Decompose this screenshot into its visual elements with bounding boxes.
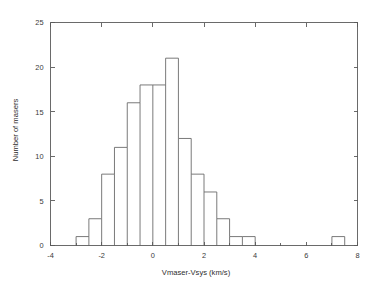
y-tick-label: 15 bbox=[35, 108, 43, 117]
x-tick-label: -2 bbox=[98, 251, 105, 260]
y-tick-label: 25 bbox=[35, 18, 43, 27]
axis-tick-labels: -4-2024680510152025 bbox=[35, 18, 359, 259]
x-tick-label: 2 bbox=[202, 251, 206, 260]
y-tick-label: 5 bbox=[39, 197, 43, 206]
x-tick-label: 8 bbox=[355, 251, 359, 260]
x-tick-label: 0 bbox=[151, 251, 155, 260]
x-axis-title: Vmaser-Vsys (km/s) bbox=[162, 268, 231, 277]
y-tick-label: 10 bbox=[35, 152, 43, 161]
histogram-bars bbox=[76, 58, 345, 245]
histogram-plot: -4-2024680510152025 Vmaser-Vsys (km/s) N… bbox=[0, 0, 374, 284]
x-tick-label: 6 bbox=[304, 251, 308, 260]
histogram-figure: -4-2024680510152025 Vmaser-Vsys (km/s) N… bbox=[0, 0, 374, 284]
outlier-bar bbox=[332, 237, 345, 246]
x-tick-label: -4 bbox=[47, 251, 54, 260]
y-tick-label: 0 bbox=[39, 241, 43, 250]
y-tick-label: 20 bbox=[35, 63, 43, 72]
x-tick-label: 4 bbox=[253, 251, 257, 260]
y-axis-title: Number of masers bbox=[11, 99, 20, 162]
